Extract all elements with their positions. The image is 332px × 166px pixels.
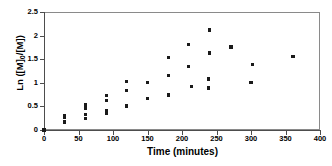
x-axis-tick-label: 0 bbox=[29, 134, 59, 144]
y-axis-tick-mark bbox=[40, 59, 44, 60]
y-axis-tick-label: 0.5 bbox=[14, 102, 38, 110]
x-axis-tick-label: 350 bbox=[271, 134, 301, 144]
y-axis-tick-label-text: 0.5 bbox=[14, 102, 38, 110]
x-axis-tick-label: 400 bbox=[305, 134, 332, 144]
y-axis-tick-label: 0 bbox=[14, 126, 38, 134]
data-point bbox=[125, 80, 128, 83]
y-axis-tick-label: 1 bbox=[14, 79, 38, 87]
x-axis-tick-label: 100 bbox=[98, 134, 128, 144]
data-point bbox=[251, 63, 254, 66]
x-axis-tick-label-text: 150 bbox=[133, 134, 163, 144]
data-point bbox=[63, 114, 66, 117]
x-axis-tick-label-text: 100 bbox=[98, 134, 128, 144]
data-point bbox=[84, 117, 87, 120]
y-axis-tick-label: 2 bbox=[14, 32, 38, 40]
x-axis-tick-label-text: 200 bbox=[167, 134, 197, 144]
data-point bbox=[42, 128, 46, 132]
y-axis-tick-label-text: 1 bbox=[14, 79, 38, 87]
data-point bbox=[187, 65, 190, 68]
y-axis-tick-mark bbox=[40, 83, 44, 84]
data-point bbox=[190, 85, 193, 88]
data-point bbox=[84, 107, 87, 110]
data-point bbox=[208, 51, 211, 54]
data-point bbox=[105, 109, 108, 112]
data-point bbox=[105, 112, 108, 115]
data-point bbox=[167, 93, 170, 96]
data-point bbox=[84, 103, 87, 106]
x-axis-tick-label-text: 400 bbox=[305, 134, 332, 144]
data-point bbox=[125, 89, 128, 92]
x-axis-tick-label: 50 bbox=[64, 134, 94, 144]
data-point bbox=[167, 56, 170, 59]
data-point bbox=[105, 94, 108, 97]
y-axis-tick-label-text: 1.5 bbox=[14, 55, 38, 63]
x-axis-tick-label-text: 0 bbox=[29, 134, 59, 144]
data-point bbox=[249, 81, 252, 84]
data-point bbox=[146, 81, 149, 84]
y-axis-line bbox=[44, 12, 45, 131]
data-point bbox=[84, 113, 87, 116]
y-axis-tick-label: 2.5 bbox=[14, 8, 38, 16]
x-axis-tick-label: 300 bbox=[236, 134, 266, 144]
data-point bbox=[208, 28, 211, 31]
data-point bbox=[167, 74, 170, 77]
y-axis-tick-label-text: 2.5 bbox=[14, 8, 38, 16]
x-axis-tick-label-text: 50 bbox=[64, 134, 94, 144]
data-point bbox=[229, 45, 232, 48]
data-point bbox=[291, 55, 294, 58]
y-axis-tick-label-text: 2 bbox=[14, 32, 38, 40]
x-axis-title: Time (minutes) bbox=[44, 146, 321, 158]
y-axis-tick-mark bbox=[40, 36, 44, 37]
scatter-chart-figure: Ln ([M]0/[M]) 00.511.522.505010015020025… bbox=[0, 0, 332, 166]
data-point bbox=[125, 104, 128, 107]
x-axis-tick-label-text: 250 bbox=[202, 134, 232, 144]
x-axis-tick-label: 150 bbox=[133, 134, 163, 144]
data-point bbox=[146, 97, 149, 100]
y-axis-tick-label: 1.5 bbox=[14, 55, 38, 63]
data-point bbox=[63, 120, 66, 123]
y-axis-tick-label-text: 0 bbox=[14, 126, 38, 134]
x-axis-tick-label-text: 300 bbox=[236, 134, 266, 144]
data-point bbox=[207, 77, 210, 80]
x-axis-tick-label: 250 bbox=[202, 134, 232, 144]
data-point bbox=[207, 86, 210, 89]
data-point bbox=[105, 99, 108, 102]
y-axis-tick-mark bbox=[40, 12, 44, 13]
x-axis-tick-label: 200 bbox=[167, 134, 197, 144]
y-axis-tick-mark bbox=[40, 106, 44, 107]
data-point bbox=[187, 43, 190, 46]
x-axis-tick-label-text: 350 bbox=[271, 134, 301, 144]
